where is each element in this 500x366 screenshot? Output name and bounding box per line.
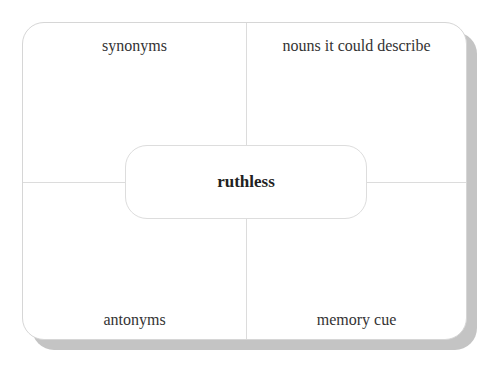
quadrant-memory-cue-label: memory cue	[247, 310, 466, 330]
center-word: ruthless	[217, 172, 275, 192]
quadrant-nouns-label: nouns it could describe	[247, 36, 466, 56]
quadrant-synonyms-label: synonyms	[23, 36, 246, 56]
center-word-box: ruthless	[125, 145, 367, 219]
quadrant-antonyms-label: antonyms	[23, 310, 246, 330]
